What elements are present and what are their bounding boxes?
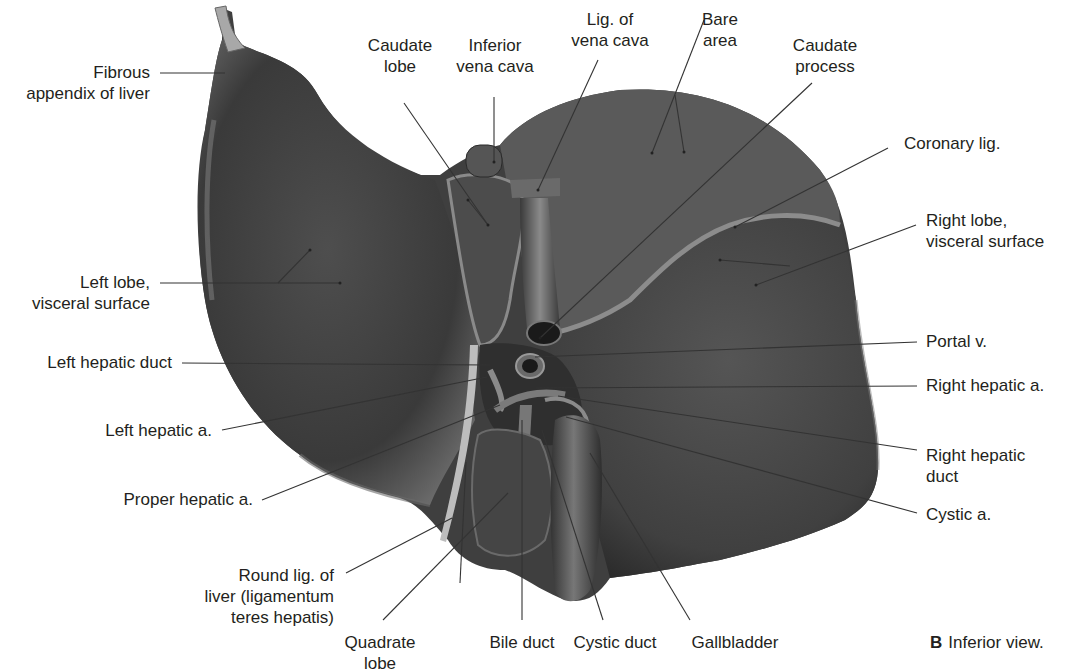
label-left-hepatic-duct: Left hepatic duct	[0, 352, 172, 373]
label-cystic-duct: Cystic duct	[560, 632, 670, 653]
ligament-of-vena-cava	[510, 178, 560, 198]
label-portal-v: Portal v.	[926, 331, 987, 352]
label-right-hepatic-duct: Right hepatic duct	[926, 445, 1025, 487]
label-lig-vena-cava: Lig. of vena cava	[555, 9, 665, 51]
gallbladder-organ	[550, 415, 601, 601]
label-round-lig: Round lig. of liver (ligamentum teres he…	[170, 565, 334, 628]
label-cystic-a: Cystic a.	[926, 504, 991, 525]
caption-letter: B	[930, 633, 942, 652]
label-bile-duct: Bile duct	[472, 632, 572, 653]
label-left-lobe: Left lobe, visceral surface	[0, 272, 150, 314]
label-coronary-lig: Coronary lig.	[904, 133, 1000, 154]
liver-illustration	[0, 0, 1069, 672]
left-lobe	[199, 40, 485, 505]
quadrate-lobe	[472, 430, 552, 556]
label-right-lobe: Right lobe, visceral surface	[926, 210, 1044, 252]
liver-illustration-figure: Fibrous appendix of liver Caudate lobe I…	[0, 0, 1069, 672]
label-right-hepatic-a: Right hepatic a.	[926, 375, 1044, 396]
label-caudate-lobe: Caudate lobe	[345, 35, 455, 77]
label-gallbladder: Gallbladder	[680, 632, 790, 653]
label-inferior-vena-cava: Inferior vena cava	[440, 35, 550, 77]
label-proper-hepatic-a: Proper hepatic a.	[0, 489, 253, 510]
inferior-vena-cava-upper	[466, 145, 502, 177]
label-fibrous-appendix: Fibrous appendix of liver	[0, 62, 150, 104]
label-quadrate-lobe: Quadrate lobe	[330, 632, 430, 672]
label-caudate-process: Caudate process	[770, 35, 880, 77]
label-left-hepatic-a: Left hepatic a.	[0, 420, 212, 441]
label-bare-area: Bare area	[680, 9, 760, 51]
caption-text: Inferior view.	[948, 633, 1043, 652]
figure-caption: BInferior view.	[930, 632, 1044, 653]
